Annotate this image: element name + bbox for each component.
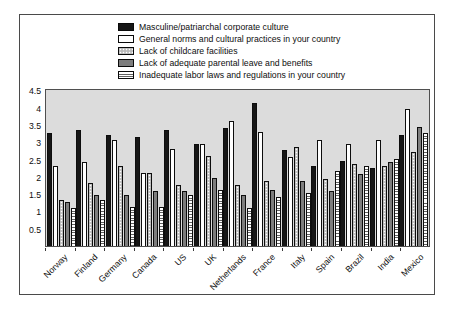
bar-solid-white bbox=[376, 140, 381, 246]
bar-dotted-light-gray bbox=[411, 152, 416, 246]
x-tick-mark bbox=[282, 248, 283, 251]
bar-dotted-light-gray bbox=[323, 179, 328, 246]
x-tick-label: India bbox=[375, 252, 395, 272]
y-tick-label: 2.5 bbox=[29, 156, 41, 166]
bar-group-canada bbox=[135, 90, 164, 246]
x-tick-mark bbox=[223, 248, 224, 251]
bar-group-india bbox=[369, 90, 398, 246]
x-tick-label: Brazil bbox=[343, 252, 365, 274]
legend-item: General norms and cultural practices in … bbox=[118, 33, 345, 45]
x-category-cell: Italy bbox=[282, 248, 312, 292]
x-category-cell: Norway bbox=[45, 248, 75, 292]
x-tick-mark bbox=[252, 248, 253, 251]
bar-group-uk bbox=[194, 90, 223, 246]
x-tick-mark bbox=[311, 248, 312, 251]
bar-dotted-light-gray bbox=[352, 164, 357, 246]
bar-solid-black bbox=[135, 137, 140, 246]
bar-solid-black bbox=[76, 130, 81, 246]
bar-solid-gray bbox=[300, 181, 305, 246]
x-category-cell: Canada bbox=[134, 248, 164, 292]
x-tick-mark bbox=[163, 248, 164, 251]
legend-item: Lack of childcare facilities bbox=[118, 45, 345, 57]
bar-solid-white bbox=[317, 140, 322, 246]
x-tick-mark bbox=[193, 248, 194, 251]
x-tick-mark bbox=[134, 248, 135, 251]
bar-dotted-light-gray bbox=[59, 200, 64, 246]
bar-solid-gray bbox=[212, 178, 217, 246]
bar-solid-black bbox=[223, 128, 228, 246]
bar-solid-white bbox=[346, 144, 351, 246]
legend-label: Lack of adequate parental leave and bene… bbox=[139, 57, 312, 69]
bar-solid-black bbox=[340, 161, 345, 246]
x-tick-label: Finland bbox=[72, 252, 99, 279]
bar-solid-gray bbox=[358, 174, 363, 246]
plot-area bbox=[45, 89, 430, 247]
x-category-cell: Mexico bbox=[400, 248, 430, 292]
x-tick-label: Norway bbox=[42, 252, 70, 280]
x-tick-mark bbox=[45, 248, 46, 251]
legend-swatch-dotted-light-gray bbox=[118, 47, 134, 55]
x-tick-mark bbox=[371, 248, 372, 251]
legend-swatch-solid-white bbox=[118, 35, 134, 43]
legend-swatch-horizontal-stripes bbox=[118, 71, 134, 79]
bar-group-spain bbox=[311, 90, 340, 246]
bar-solid-gray bbox=[270, 190, 275, 246]
bar-solid-white bbox=[229, 121, 234, 246]
bar-dotted-light-gray bbox=[264, 181, 269, 246]
x-tick-mark bbox=[104, 248, 105, 251]
x-category-cell: India bbox=[371, 248, 401, 292]
x-tick-label: Italy bbox=[288, 252, 306, 270]
bar-solid-black bbox=[47, 133, 52, 246]
y-tick-label: 3.5 bbox=[29, 121, 41, 131]
x-axis: NorwayFinlandGermanyCanadaUSUKNetherland… bbox=[45, 248, 430, 292]
x-tick-mark bbox=[75, 248, 76, 251]
bar-dotted-light-gray bbox=[206, 156, 211, 246]
x-tick-label: UK bbox=[202, 252, 218, 268]
x-tick-mark bbox=[400, 248, 401, 251]
bar-solid-black bbox=[164, 130, 169, 246]
legend-item: Masculine/patriarchal corporate culture bbox=[118, 21, 345, 33]
x-category-cell: Netherlands bbox=[223, 248, 253, 292]
bar-solid-white bbox=[405, 109, 410, 246]
bar-solid-black bbox=[399, 135, 404, 246]
x-category-cell: US bbox=[163, 248, 193, 292]
chart-legend: Masculine/patriarchal corporate cultureG… bbox=[118, 21, 345, 81]
bar-solid-black bbox=[252, 103, 257, 246]
bar-dotted-light-gray bbox=[235, 185, 240, 246]
figure-box: Masculine/patriarchal corporate cultureG… bbox=[19, 14, 435, 295]
bar-solid-black bbox=[311, 166, 316, 246]
bar-solid-white bbox=[82, 162, 87, 246]
bar-solid-gray bbox=[182, 191, 187, 246]
legend-swatch-solid-black bbox=[118, 23, 134, 31]
bar-group-germany bbox=[106, 90, 135, 246]
bar-group-mexico bbox=[399, 90, 428, 246]
bar-group-italy bbox=[282, 90, 311, 246]
y-tick-label: 1.5 bbox=[29, 190, 41, 200]
x-tick-label: Spain bbox=[314, 252, 337, 275]
y-tick-label: 4.5 bbox=[29, 86, 41, 96]
bar-solid-gray bbox=[94, 195, 99, 246]
x-tick-mark bbox=[341, 248, 342, 251]
legend-label: Inadequate labor laws and regulations in… bbox=[139, 69, 345, 81]
bar-group-finland bbox=[76, 90, 105, 246]
bar-solid-white bbox=[112, 140, 117, 246]
bar-solid-white bbox=[170, 149, 175, 246]
bar-solid-gray bbox=[65, 202, 70, 246]
y-tick-label: 2 bbox=[36, 173, 41, 183]
bar-solid-gray bbox=[388, 162, 393, 246]
y-tick-label: 1 bbox=[36, 207, 41, 217]
bar-solid-gray bbox=[329, 191, 334, 246]
x-category-cell: France bbox=[252, 248, 282, 292]
bar-solid-white bbox=[141, 173, 146, 246]
bar-group-norway bbox=[47, 90, 76, 246]
legend-swatch-solid-gray bbox=[118, 59, 134, 67]
bar-solid-gray bbox=[241, 195, 246, 246]
bar-solid-black bbox=[194, 144, 199, 246]
bar-solid-gray bbox=[417, 127, 422, 246]
bar-solid-white bbox=[200, 144, 205, 246]
bar-solid-black bbox=[370, 168, 375, 247]
bar-group-brazil bbox=[340, 90, 369, 246]
bar-solid-black bbox=[282, 150, 287, 246]
bar-group-us bbox=[164, 90, 193, 246]
bar-solid-gray bbox=[153, 191, 158, 246]
